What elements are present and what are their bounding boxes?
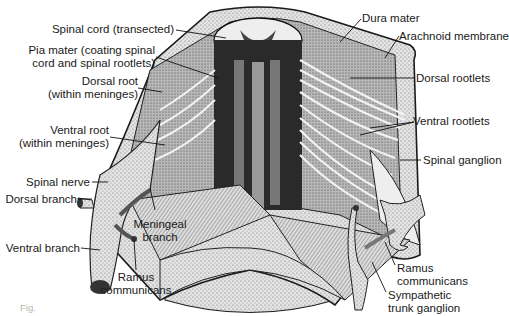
label-meningeal-branch-line1: Meningeal <box>130 218 190 231</box>
label-ventral-root-line2: (within meninges) <box>5 137 109 150</box>
label-ramus-communicans-left-line1: Ramus <box>100 271 172 284</box>
label-dorsal-branch: Dorsal branch <box>0 193 77 206</box>
figure-caption: Fig. <box>20 302 36 313</box>
label-ramus-communicans-right-line2: communicans <box>397 275 468 288</box>
label-sympathetic-trunk-line1: Sympathetic <box>388 289 451 302</box>
label-ventral-root-line1: Ventral root <box>5 124 109 137</box>
label-dura-mater: Dura mater <box>362 12 420 25</box>
label-pia-mater-line2: cord and spinal rootlets) <box>10 57 155 70</box>
label-dorsal-rootlets: Dorsal rootlets <box>416 72 490 85</box>
label-ramus-communicans-left-line2: communicans <box>100 284 172 297</box>
label-spinal-ganglion: Spinal ganglion <box>423 154 502 167</box>
label-sympathetic-trunk-line2: trunk ganglion <box>388 302 460 315</box>
label-arachnoid-membrane: Arachnoid membrane <box>399 30 509 43</box>
label-dorsal-root-line2: (within meninges) <box>30 88 138 101</box>
label-spinal-cord: Spinal cord (transected) <box>40 23 174 36</box>
label-pia-mater-line1: Pia mater (coating spinal <box>10 44 155 57</box>
label-spinal-nerve: Spinal nerve <box>0 176 90 189</box>
label-ramus-communicans-right-line1: Ramus <box>397 262 433 275</box>
label-dorsal-root-line1: Dorsal root <box>30 75 138 88</box>
label-ventral-branch: Ventral branch <box>0 242 80 255</box>
spinal-cord <box>214 18 302 212</box>
label-meningeal-branch-line2: branch <box>130 231 190 244</box>
label-ventral-rootlets: Ventral rootlets <box>413 115 490 128</box>
